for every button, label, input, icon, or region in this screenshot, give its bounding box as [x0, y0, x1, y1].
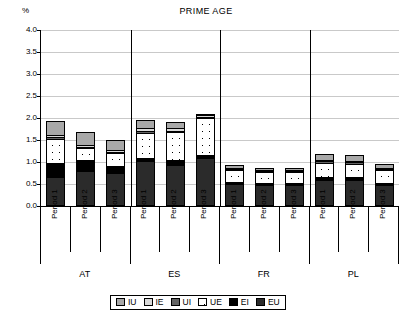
group-label-fr: FR: [219, 269, 309, 279]
bar-segment-iu: [107, 141, 124, 151]
axis-separator: [398, 206, 399, 264]
bar-segment-ue: [167, 133, 184, 160]
period-label: Period 2: [169, 189, 178, 219]
y-tick-label: 0.5: [26, 180, 37, 188]
axis-separator: [100, 206, 101, 252]
axis-separator: [70, 206, 71, 252]
legend-swatch-ui: [171, 298, 180, 306]
legend-item-iu: IU: [116, 298, 137, 307]
bar-segment-ue: [137, 134, 154, 159]
legend-item-ui: UI: [171, 298, 192, 307]
axis-separator: [40, 206, 41, 264]
group-label-es: ES: [130, 269, 220, 279]
period-label: Period 1: [50, 189, 59, 219]
group-separator: [310, 30, 311, 206]
bar-segment-ue: [197, 119, 214, 156]
bar-segment-ei: [107, 167, 124, 175]
y-tick-label: 0.0: [26, 202, 37, 210]
bar-segment-ei: [47, 164, 64, 177]
group-label-pl: PL: [309, 269, 399, 279]
y-tick-label: 2.5: [26, 92, 37, 100]
legend-label: EI: [241, 298, 249, 307]
axis-separator: [189, 206, 190, 252]
legend-swatch-ie: [144, 298, 153, 306]
axis-separator: [368, 206, 369, 252]
axis-separator: [309, 206, 310, 264]
group-separator: [220, 30, 221, 206]
legend-item-ue: UE: [198, 298, 222, 307]
bar-segment-iu: [77, 133, 94, 146]
period-label: Period 3: [110, 189, 119, 219]
axis-separator: [249, 206, 250, 252]
chart-legend: IUIEUIUEEIEU: [110, 295, 286, 310]
y-tick-label: 3.0: [26, 70, 37, 78]
chart-title: PRIME AGE: [0, 6, 412, 16]
bar-segment-ue: [316, 164, 333, 178]
axis-separator: [219, 206, 220, 264]
period-label: Period 3: [199, 189, 208, 219]
legend-item-ei: EI: [229, 298, 249, 307]
period-label: Period 2: [348, 189, 357, 219]
bar-segment-iu: [47, 122, 64, 136]
y-tick-label: 4.0: [26, 26, 37, 34]
bar-segment-ue: [286, 173, 303, 184]
bar-segment-ue: [226, 171, 243, 184]
plot-area: 0.00.51.01.52.02.53.03.54.0: [40, 30, 399, 207]
period-label: Period 1: [318, 189, 327, 219]
axis-separator: [338, 206, 339, 252]
y-tick-label: 1.0: [26, 158, 37, 166]
y-axis-label: %: [22, 6, 29, 15]
legend-label: EU: [268, 298, 280, 307]
legend-swatch-iu: [116, 298, 125, 306]
bar-segment-ue: [256, 173, 273, 184]
chart-root: PRIME AGE % 0.00.51.01.52.02.53.03.54.0 …: [0, 0, 412, 318]
bar-segment-ue: [107, 154, 124, 167]
bar-segment-ue: [47, 140, 64, 165]
period-label: Period 1: [139, 189, 148, 219]
bar-segment-ue: [77, 149, 94, 161]
y-tick-label: 2.0: [26, 114, 37, 122]
period-label: Period 3: [289, 189, 298, 219]
period-label: Period 3: [378, 189, 387, 219]
axis-separator: [159, 206, 160, 252]
legend-label: IU: [128, 298, 137, 307]
bar-segment-iu: [137, 121, 154, 129]
legend-swatch-eu: [256, 298, 265, 306]
period-label: Period 2: [80, 189, 89, 219]
legend-label: UE: [210, 298, 222, 307]
period-label: Period 2: [259, 189, 268, 219]
legend-label: IE: [156, 298, 164, 307]
y-tick-label: 1.5: [26, 136, 37, 144]
bar-segment-ei: [77, 161, 94, 171]
axis-separator: [130, 206, 131, 264]
axis-separator: [279, 206, 280, 252]
legend-item-eu: EU: [256, 298, 280, 307]
legend-label: UI: [183, 298, 192, 307]
bar-segment-ue: [346, 165, 363, 179]
y-tick-label: 3.5: [26, 48, 37, 56]
legend-item-ie: IE: [144, 298, 164, 307]
bar-segment-ue: [376, 171, 393, 184]
group-label-at: AT: [40, 269, 130, 279]
period-label: Period 1: [229, 189, 238, 219]
legend-swatch-ei: [229, 298, 238, 306]
group-separator: [131, 30, 132, 206]
legend-swatch-ue: [198, 298, 207, 306]
